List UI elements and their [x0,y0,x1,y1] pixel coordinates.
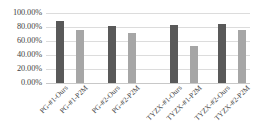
y-axis: 100.00% 80.00% 60.00% 40.00% 20.00% 0.00… [0,0,44,136]
bar-tyzx-1-p2m [190,46,198,83]
bar-pg-1-p2m [76,30,84,83]
y-tick-label: 20.00% [17,65,42,73]
bar-tyzx-2-ours [218,24,226,83]
y-tick-label: 80.00% [17,23,42,31]
bar-tyzx-1-ours [170,25,178,83]
bar-pg-2-p2m [128,33,136,83]
bar-chart: 100.00% 80.00% 60.00% 40.00% 20.00% 0.00… [0,0,255,136]
bars-layer [46,13,250,83]
y-tick-label: 0.00% [21,79,42,87]
y-tick-label: 100.00% [13,9,42,17]
plot-area [46,13,250,83]
bar-pg-2-ours [108,26,116,83]
x-axis: PG-#1-Ours PG-#1-P2M PG-#2-Ours PG-#2-P2… [46,84,250,136]
bar-tyzx-2-p2m [238,30,246,83]
y-tick-label: 40.00% [17,51,42,59]
bar-pg-1-ours [56,21,64,83]
y-tick-label: 60.00% [17,37,42,45]
